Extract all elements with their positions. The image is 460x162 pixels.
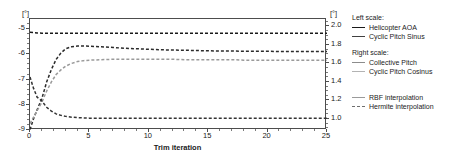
y-tick-label-right: 2.0 xyxy=(331,20,351,29)
series-line xyxy=(30,77,327,118)
right-axis-unit: [°] xyxy=(330,9,337,18)
x-tick-label: 0 xyxy=(17,131,41,140)
legend-swatch-icon xyxy=(352,68,365,75)
series-line xyxy=(30,32,327,33)
legend-group: RBF interpolationHermite interpolation xyxy=(352,84,460,111)
legend-heading: Right scale: xyxy=(352,49,460,56)
legend-swatch-icon xyxy=(352,33,365,40)
left-axis-unit: [°] xyxy=(22,9,29,18)
chart-figure: [°] [°] -5-6-7-8-9 2.01.81.61.41.21.0 05… xyxy=(0,0,460,162)
series-line xyxy=(30,59,327,123)
legend-item[interactable]: Cyclic Pitch Cosinus xyxy=(352,67,460,76)
legend-group: Left scale:Helicopter AOACyclic Pitch Si… xyxy=(352,14,460,41)
legend-swatch-icon xyxy=(352,94,365,101)
x-tick-label: 20 xyxy=(255,131,279,140)
chart-legend: Left scale:Helicopter AOACyclic Pitch Si… xyxy=(352,14,460,119)
x-axis-title: Trim iteration xyxy=(29,143,326,152)
legend-heading: Left scale: xyxy=(352,14,460,21)
x-tick-label: 5 xyxy=(76,131,100,140)
legend-swatch-icon xyxy=(352,103,365,110)
legend-swatch-icon xyxy=(352,59,365,66)
legend-item[interactable]: RBF interpolation xyxy=(352,93,460,102)
legend-swatch-icon xyxy=(352,24,365,31)
x-tick-label: 25 xyxy=(314,131,338,140)
x-tick-label: 10 xyxy=(136,131,160,140)
chart-lines xyxy=(30,19,327,130)
y-tick-label-right: 1.0 xyxy=(331,113,351,122)
y-tick-label-left: -7 xyxy=(9,74,25,83)
legend-label: Hermite interpolation xyxy=(369,102,434,111)
legend-item[interactable]: Cyclic Pitch Sinus xyxy=(352,32,460,41)
plot-area xyxy=(29,18,326,129)
y-tick-label-right: 1.6 xyxy=(331,57,351,66)
legend-label: Cyclic Pitch Cosinus xyxy=(369,67,432,76)
x-tick-label: 15 xyxy=(195,131,219,140)
y-tick-label-left: -6 xyxy=(9,48,25,57)
legend-item[interactable]: Hermite interpolation xyxy=(352,102,460,111)
legend-group: Right scale:Collective PitchCyclic Pitch… xyxy=(352,49,460,76)
y-tick-label-left: -8 xyxy=(9,99,25,108)
legend-label: RBF interpolation xyxy=(369,93,423,102)
y-tick-label-right: 1.2 xyxy=(331,94,351,103)
legend-label: Helicopter AOA xyxy=(369,23,417,32)
legend-label: Cyclic Pitch Sinus xyxy=(369,32,425,41)
legend-spacer xyxy=(352,84,460,93)
legend-item[interactable]: Collective Pitch xyxy=(352,58,460,67)
y-tick-label-left: -5 xyxy=(9,23,25,32)
y-tick-label-right: 1.8 xyxy=(331,39,351,48)
legend-item[interactable]: Helicopter AOA xyxy=(352,23,460,32)
y-tick-label-right: 1.4 xyxy=(331,76,351,85)
legend-label: Collective Pitch xyxy=(369,58,417,67)
